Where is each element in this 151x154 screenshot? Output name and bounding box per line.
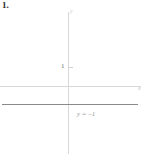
y-axis-label: y [70, 8, 73, 15]
y-axis-tick-label: 1 [61, 62, 65, 70]
x-axis-line [0, 86, 141, 87]
plotted-line [2, 104, 138, 105]
y-axis-tick-mark [69, 67, 73, 68]
y-axis-line [68, 12, 69, 154]
line-equation-label: y = –1 [77, 110, 95, 118]
x-axis-label: x [138, 85, 141, 92]
graph-figure: 1. y x 1 y = –1 [0, 0, 151, 154]
problem-number-label: 1. [2, 0, 9, 10]
